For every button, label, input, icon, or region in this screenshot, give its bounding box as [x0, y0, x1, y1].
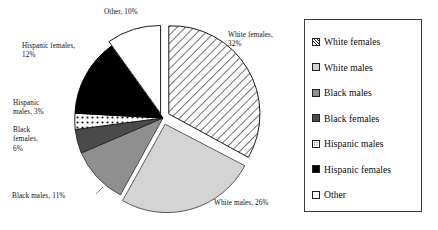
legend-label-black-females: Black females — [324, 113, 379, 124]
legend-swatch-icon-black-males — [312, 89, 320, 97]
callout-other: Other, 10% — [104, 8, 174, 17]
legend-swatch-icon-other — [312, 191, 320, 199]
legend-label-hispanic-females: Hispanic females — [324, 164, 391, 175]
legend-swatch-icon-black-females — [312, 114, 320, 122]
legend-swatch-icon-white-males — [312, 63, 320, 71]
legend-label-black-males: Black males — [324, 87, 372, 98]
legend-item-black-males: Black males — [312, 80, 421, 106]
callout-black-females: Black females, 6% — [13, 126, 73, 154]
legend-item-hispanic-males: Hispanic males — [312, 131, 421, 157]
callout-white-males: White males, 26% — [214, 199, 294, 208]
legend-item-other: Other — [312, 182, 421, 208]
pie-chart-figure: White females, 32% White males, 26% Blac… — [0, 0, 438, 230]
chart-legend: White females White males Black males Bl… — [304, 19, 422, 212]
legend-swatch-icon-hispanic-females — [312, 165, 320, 173]
callout-hispanic-males: Hispanic males, 3% — [13, 99, 73, 118]
legend-item-white-females: White females — [312, 29, 421, 55]
legend-label-white-males: White males — [324, 62, 373, 73]
legend-swatch-icon-white-females — [312, 38, 320, 46]
legend-swatch-icon-hispanic-males — [312, 140, 320, 148]
legend-item-white-males: White males — [312, 55, 421, 81]
legend-item-hispanic-females: Hispanic females — [312, 157, 421, 183]
callout-hispanic-females: Hispanic females, 12% — [22, 42, 106, 61]
legend-label-hispanic-males: Hispanic males — [324, 138, 384, 149]
legend-item-black-females: Black females — [312, 106, 421, 132]
legend-label-other: Other — [324, 189, 346, 200]
callout-white-females: White females, 32% — [228, 31, 298, 50]
legend-label-white-females: White females — [324, 36, 380, 47]
callout-black-males: Black males, 11% — [12, 192, 107, 201]
